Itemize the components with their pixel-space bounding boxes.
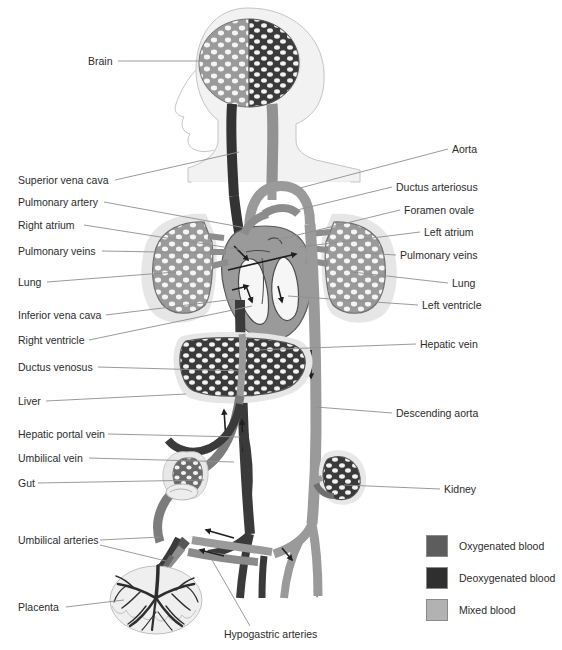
vessel-carotid-mixed [272,104,273,190]
legend-label-mixed: Mixed blood [459,604,516,616]
label-inferior-vena-cava: Inferior vena cava [18,309,101,321]
label-hepatic-portal-vein: Hepatic portal vein [18,428,105,440]
label-lung: Lung [18,276,41,288]
label-gut: Gut [18,477,35,489]
legend-label-oxygenated: Oxygenated blood [459,540,544,552]
label-left-atrium: Left atrium [424,226,474,238]
legend-swatch-oxygenated [426,535,448,557]
brain-organ [197,18,301,108]
label-brain: Brain [88,55,113,67]
label-pulmonary-artery: Pulmonary artery [18,196,98,208]
legend-item: Deoxygenated blood [426,565,558,591]
legend-item: Oxygenated blood [426,533,558,559]
label-foramen-ovale: Foramen ovale [404,204,474,216]
label-umbilical-vein: Umbilical vein [18,452,83,464]
legend-item: Mixed blood [426,597,558,623]
label-liver: Liver [18,395,41,407]
label-superior-vena-cava: Superior vena cava [18,174,108,186]
label-pulmonary-veins: Pulmonary veins [18,245,96,257]
leader-line [100,537,161,540]
label-ductus-venosus: Ductus venosus [18,361,93,373]
fetal-circulation-figure: BrainSuperior vena cavaPulmonary arteryR… [0,0,562,650]
vessel-jugular-deoxygenated [231,104,234,196]
label-aorta: Aorta [452,143,477,155]
label-placenta: Placenta [18,601,59,613]
label-hepatic-vein: Hepatic vein [420,338,478,350]
label-right-ventricle: Right ventricle [18,334,85,346]
label-hypogastric-arteries: Hypogastric arteries [224,628,317,640]
label-lung: Lung [452,277,475,289]
lung-left-organ [321,214,396,323]
legend-label-deoxygenated: Deoxygenated blood [459,572,555,584]
label-descending-aorta: Descending aorta [396,407,478,419]
label-pulmonary-veins: Pulmonary veins [400,249,478,261]
label-kidney: Kidney [444,483,476,495]
legend: Oxygenated blood Deoxygenated blood Mixe… [426,533,558,629]
label-umbilical-arteries: Umbilical arteries [18,534,99,546]
label-right-atrium: Right atrium [18,219,75,231]
leader-line [46,394,186,401]
gut-organ [163,452,208,500]
liver-organ [174,332,313,404]
label-left-ventricle: Left ventricle [422,299,482,311]
legend-swatch-deoxygenated [426,567,448,589]
leader-line [100,545,166,561]
label-ductus-arteriosus: Ductus arteriosus [396,181,478,193]
legend-swatch-mixed [426,599,448,621]
